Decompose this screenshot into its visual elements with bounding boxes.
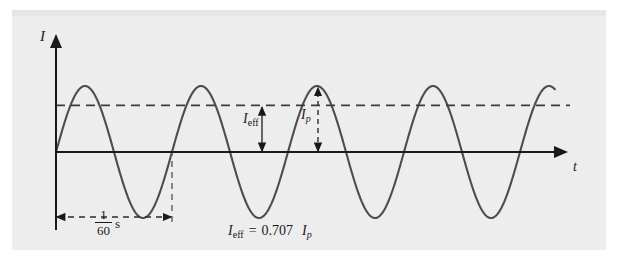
equation-coefficient: 0.707 bbox=[262, 223, 294, 238]
period-label: 1 60 s bbox=[95, 207, 120, 237]
peak-current-subscript: p bbox=[306, 113, 311, 124]
period-denominator: 60 bbox=[95, 224, 112, 237]
equation-caption: Ieff=0.707Ip bbox=[228, 224, 312, 240]
effective-current-label: Ieff bbox=[243, 112, 259, 128]
x-axis-label: t bbox=[573, 160, 577, 174]
period-fraction: 1 60 bbox=[95, 208, 112, 238]
effective-current-subscript: eff bbox=[248, 117, 259, 128]
peak-current-label: Ip bbox=[301, 108, 311, 124]
period-numerator: 1 bbox=[98, 208, 109, 221]
panel-tint-top bbox=[12, 10, 606, 16]
equation-rhs-subscript: p bbox=[307, 229, 312, 240]
figure-root: I t Ieff Ip 1 60 s Ieff=0.707Ip bbox=[0, 0, 618, 266]
equation-operator: = bbox=[249, 223, 257, 238]
y-axis-label: I bbox=[40, 29, 45, 44]
period-unit: s bbox=[115, 217, 120, 230]
equation-lhs-subscript: eff bbox=[233, 229, 244, 240]
